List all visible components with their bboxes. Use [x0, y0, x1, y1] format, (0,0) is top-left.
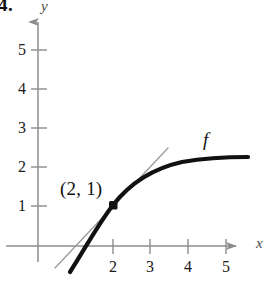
- figure-canvas: [0, 0, 265, 284]
- y-axis-label: y: [41, 0, 48, 14]
- y-tick-label-5: 5: [10, 42, 26, 58]
- function-name-label: f: [203, 130, 208, 149]
- point-marker-2-1: [109, 201, 118, 210]
- y-axis-ticks: [31, 50, 47, 206]
- calculus-figure: 4. y x 5 4 3 2 1 2 3 4 5 (2, 1) f: [0, 0, 265, 284]
- x-tick-label-4: 4: [180, 259, 196, 275]
- point-coordinate-label: (2, 1): [60, 179, 102, 198]
- y-tick-label-3: 3: [10, 120, 26, 136]
- function-curve-f: [70, 157, 248, 272]
- x-axis-label: x: [256, 236, 263, 251]
- problem-number: 4.: [0, 0, 13, 14]
- y-tick-label-4: 4: [10, 81, 26, 97]
- x-tick-label-5: 5: [218, 259, 234, 275]
- x-tick-label-3: 3: [142, 259, 158, 275]
- x-tick-label-2: 2: [105, 259, 121, 275]
- y-tick-label-1: 1: [10, 198, 26, 214]
- y-tick-label-2: 2: [10, 159, 26, 175]
